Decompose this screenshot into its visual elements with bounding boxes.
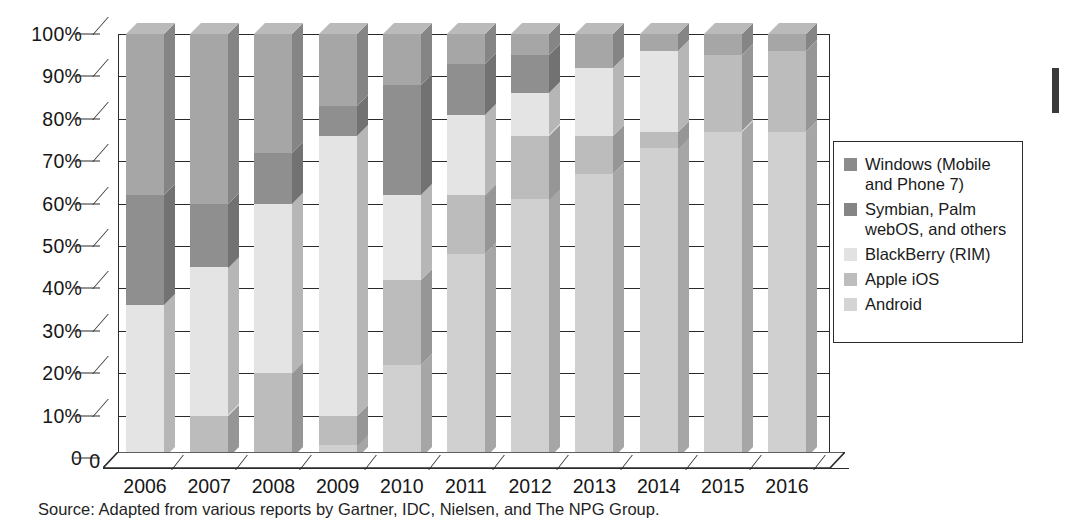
bar-segment <box>254 373 292 458</box>
scan-artifact-mark <box>1052 68 1059 113</box>
legend-label: Symbian, Palm webOS, and others <box>865 199 1006 239</box>
bar-segment <box>254 153 292 204</box>
bar-segment <box>383 85 421 195</box>
bar-segment <box>640 51 678 132</box>
bar-segment <box>704 34 742 55</box>
bar-2016 <box>768 34 806 458</box>
bar-segment <box>511 93 549 135</box>
bar-segment <box>190 34 228 204</box>
bar-segment-side <box>421 354 432 458</box>
bar-segment-side <box>164 23 175 195</box>
bar-segment-side <box>292 193 303 374</box>
bar-segment-side <box>164 294 175 458</box>
legend-item: Apple iOS <box>844 269 1014 289</box>
bar-2009 <box>319 34 357 458</box>
x-axis-tick <box>621 455 634 470</box>
bar-segment <box>319 136 357 416</box>
bar-segment <box>575 136 613 174</box>
legend-label: BlackBerry (RIM) <box>865 244 991 264</box>
bar-segment-side <box>485 104 496 196</box>
x-axis-tick <box>556 455 569 470</box>
x-axis-label-2014: 2014 <box>624 475 694 498</box>
x-axis-label-2007: 2007 <box>174 475 244 498</box>
bar-segment <box>383 34 421 85</box>
bar-segment <box>447 115 485 196</box>
bar-segment-side <box>613 163 624 458</box>
legend-item: Symbian, Palm webOS, and others <box>844 199 1014 239</box>
legend-item: Windows (Mobile and Phone 7) <box>844 154 1014 194</box>
bar-segment-side <box>678 137 689 458</box>
x-axis-tick <box>428 455 441 470</box>
bar-2013 <box>575 34 613 458</box>
bar-segment <box>768 51 806 132</box>
bar-segment-side <box>613 57 624 136</box>
bar-segment <box>511 34 549 55</box>
x-axis-tick <box>749 455 762 470</box>
legend-label: Apple iOS <box>865 269 939 289</box>
x-axis-label-2010: 2010 <box>367 475 437 498</box>
legend-label: Windows (Mobile and Phone 7) <box>865 154 991 194</box>
x-axis-tick <box>813 455 826 470</box>
legend-item: BlackBerry (RIM) <box>844 244 1014 264</box>
bar-segment-side <box>357 23 368 106</box>
x-axis-label-2015: 2015 <box>688 475 758 498</box>
bar-segment <box>383 280 421 365</box>
x-axis-tick <box>492 455 505 470</box>
bar-segment <box>126 195 164 305</box>
bar-segment <box>319 106 357 136</box>
bar-segment <box>640 132 678 149</box>
bar-segment-side <box>421 184 432 280</box>
legend-swatch-icon <box>844 158 857 171</box>
bar-segment-side <box>228 23 239 204</box>
legend: Windows (Mobile and Phone 7)Symbian, Pal… <box>833 141 1023 343</box>
bar-segment-side <box>742 121 753 458</box>
bar-segment-side <box>292 362 303 458</box>
x-axis-tick <box>300 455 313 470</box>
bar-segment-side <box>549 125 560 200</box>
bar-segment-side <box>421 74 432 195</box>
legend-swatch-icon <box>844 298 857 311</box>
x-axis-label-2016: 2016 <box>752 475 822 498</box>
plot-area <box>118 34 830 458</box>
bar-segment <box>768 132 806 458</box>
bar-2006 <box>126 34 164 458</box>
bar-segment <box>511 136 549 200</box>
bar-segment <box>575 174 613 458</box>
x-axis-tick <box>235 455 248 470</box>
bar-segment <box>575 68 613 136</box>
bar-segment <box>640 148 678 458</box>
bar-2015 <box>704 34 742 458</box>
bar-segment-side <box>228 193 239 268</box>
bar-segment <box>511 55 549 93</box>
x-axis-tick <box>685 455 698 470</box>
bar-segment <box>447 34 485 64</box>
bar-segment-side <box>678 40 689 132</box>
legend-swatch-icon <box>844 248 857 261</box>
legend-item: Android <box>844 294 1014 314</box>
bar-segment-side <box>292 23 303 153</box>
bar-segment <box>447 254 485 458</box>
x-axis-label-2009: 2009 <box>303 475 373 498</box>
bar-segment-side <box>421 269 432 365</box>
bar-segment <box>704 55 742 131</box>
bar-segment <box>319 34 357 106</box>
legend-label: Android <box>865 294 922 314</box>
bar-segment <box>190 267 228 415</box>
bar-2010 <box>383 34 421 458</box>
bar-2014 <box>640 34 678 458</box>
x-axis-tick <box>171 455 184 470</box>
bar-2007 <box>190 34 228 458</box>
bar-2012 <box>511 34 549 458</box>
legend-swatch-icon <box>844 273 857 286</box>
bar-segment-side <box>806 121 817 458</box>
bar-segment <box>447 195 485 254</box>
bar-2011 <box>447 34 485 458</box>
mobile-os-market-share-chart: 010%20%30%40%50%60%70%80%90%100% 0 20062… <box>0 0 1071 532</box>
legend-swatch-icon <box>844 203 857 216</box>
bar-segment-side <box>485 184 496 254</box>
bar-segment <box>126 305 164 458</box>
bar-segment <box>383 365 421 458</box>
x-axis: 2006200720082009201020112012201320142015… <box>0 455 1071 505</box>
x-axis-label-2013: 2013 <box>559 475 629 498</box>
bar-segment <box>190 204 228 268</box>
